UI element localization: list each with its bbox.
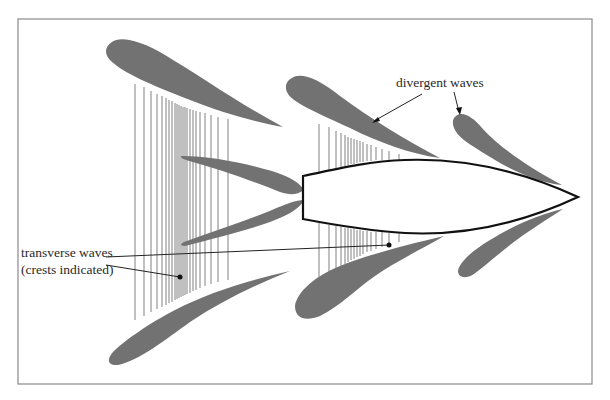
label-transverse-waves: transverse waves [21, 245, 113, 260]
divergent-wave-inner-lower [181, 200, 304, 246]
divergent-wave-inner-upper [181, 156, 304, 194]
leader-dot [178, 275, 183, 280]
arrowhead-icon [456, 107, 462, 115]
divergent-leaders [372, 92, 462, 123]
divergent-wave-top-left [106, 39, 283, 127]
label-crests-indicated: (crests indicated) [21, 262, 114, 277]
leader-dot [387, 243, 392, 248]
divergent-wave-bottom-left [109, 271, 290, 365]
transverse-crests-left [135, 84, 228, 320]
label-divergent-waves: divergent waves [396, 75, 484, 90]
wake-diagram: divergent waves transverse waves (crests… [0, 0, 610, 400]
